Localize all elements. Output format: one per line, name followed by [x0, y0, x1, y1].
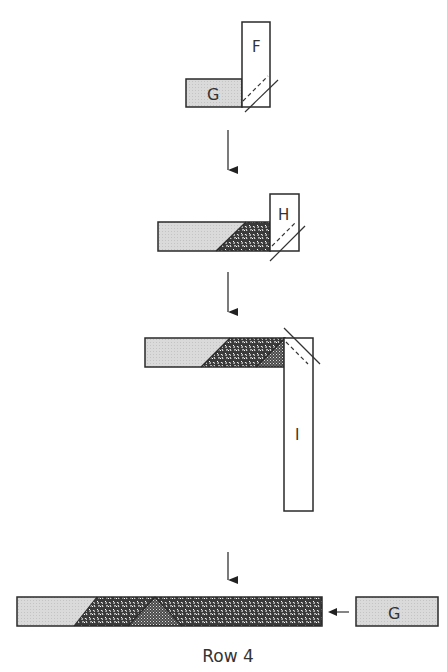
- step-3: I: [145, 328, 320, 511]
- label-h: H: [278, 206, 289, 224]
- step-4: G: [17, 597, 438, 626]
- step-1: G F: [186, 22, 278, 112]
- caption: Row 4: [202, 646, 254, 666]
- step-2: H: [158, 194, 305, 261]
- left-arrow-head: [328, 608, 337, 616]
- piece-i: [284, 338, 313, 511]
- piece-f: [242, 22, 270, 107]
- label-g-right: G: [388, 604, 400, 623]
- quilt-row-assembly-diagram: G F H I: [0, 0, 447, 672]
- label-g: G: [207, 85, 219, 104]
- piece-print: [74, 597, 322, 626]
- label-i: I: [295, 426, 299, 444]
- label-f: F: [252, 38, 261, 56]
